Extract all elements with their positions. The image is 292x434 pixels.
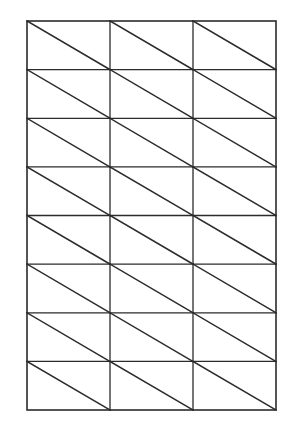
- triangulated-grid-figure: [0, 0, 292, 434]
